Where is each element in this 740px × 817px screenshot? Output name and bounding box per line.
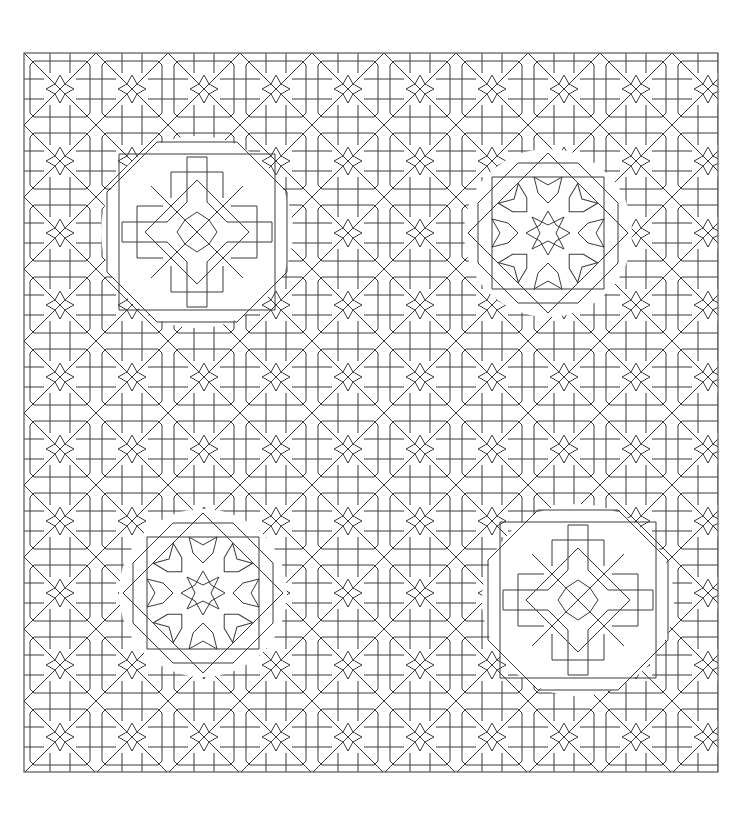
rosette-bottom-right bbox=[482, 504, 674, 696]
rosette-bottom-left bbox=[119, 509, 287, 677]
rosette-top-right bbox=[464, 149, 632, 317]
geometric-pattern-artwork bbox=[0, 0, 740, 817]
rosette-top-left bbox=[101, 136, 293, 328]
